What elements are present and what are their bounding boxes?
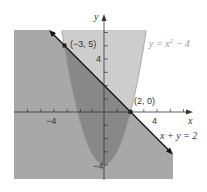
- inequality-graph: y x −4 4 4 −4 (−3, 5) (2, 0) y = x2 − 4 …: [0, 0, 207, 192]
- point-label-a: (−3, 5): [70, 39, 96, 49]
- x-tick-label-4: 4: [152, 116, 157, 126]
- point-label-b: (2, 0): [134, 96, 155, 106]
- x-tick-label-neg4: −4: [46, 116, 56, 126]
- y-axis-arrow-icon: [102, 14, 107, 21]
- point-marker-a: [63, 44, 67, 48]
- y-tick-label-neg4: −4: [93, 161, 103, 171]
- parabola-label: y = x2 − 4: [148, 37, 190, 49]
- x-axis-arrow-icon: [186, 110, 193, 115]
- x-axis-label: x: [187, 115, 193, 126]
- y-axis-label: y: [93, 11, 99, 22]
- point-marker-b: [129, 110, 133, 114]
- line-label: x + y = 2: [159, 130, 197, 141]
- y-tick-label-4: 4: [96, 54, 101, 64]
